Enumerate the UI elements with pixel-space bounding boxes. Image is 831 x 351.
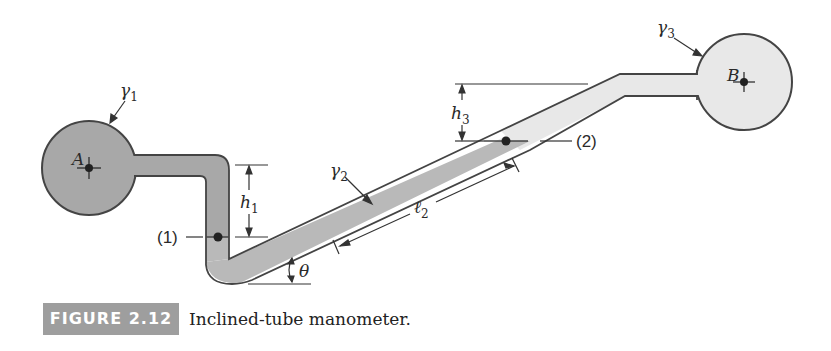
gamma-leaders: [110, 38, 702, 204]
level-2-dot: [502, 137, 511, 146]
manometer-diagram: γ1 γ2 γ3 A B h1 h3 ℓ2 θ (1) (2): [0, 0, 831, 351]
level-2-label: (2): [576, 132, 597, 151]
level-1-dot: [214, 233, 223, 242]
point-b-label: B: [726, 65, 740, 85]
figure-badge: FIGURE 2.12: [43, 303, 179, 335]
gamma3-label: γ3: [657, 17, 675, 41]
gamma1-label: γ1: [120, 80, 138, 104]
level-1-label: (1): [157, 228, 178, 247]
figure-caption: Inclined-tube manometer.: [189, 303, 411, 335]
gamma2-label: γ2: [330, 160, 348, 184]
theta-label: θ: [299, 261, 309, 281]
h1-label: h1: [240, 192, 259, 216]
h3-label: h3: [451, 103, 470, 127]
point-a-label: A: [70, 149, 84, 169]
